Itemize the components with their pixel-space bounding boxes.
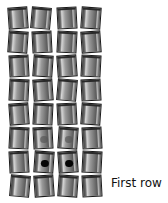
black-dot-marker — [41, 160, 49, 168]
tile — [8, 78, 29, 101]
faint-dot-marker — [65, 136, 73, 144]
tile — [7, 30, 28, 53]
tile-edge — [10, 31, 28, 34]
tile — [56, 78, 78, 102]
tile — [80, 54, 101, 77]
tile-edge — [82, 56, 100, 59]
tile — [57, 174, 78, 197]
tile — [56, 102, 77, 125]
tile-edge — [33, 128, 51, 131]
tile — [81, 150, 102, 173]
tile-edge — [58, 32, 76, 35]
tile-edge — [58, 151, 76, 154]
tile-edge — [57, 8, 75, 11]
tile — [8, 126, 29, 149]
first-row-label: First row — [111, 176, 162, 190]
tile — [32, 54, 53, 77]
black-dot-marker — [65, 160, 73, 168]
tile-edge — [83, 103, 101, 106]
tile-edge — [10, 128, 28, 131]
tile — [80, 6, 101, 29]
tile-edge — [82, 128, 100, 131]
tile — [30, 6, 52, 30]
tile-edge — [82, 176, 100, 179]
tile-edge — [32, 32, 50, 35]
tile-edge — [10, 80, 28, 83]
tile — [31, 30, 52, 53]
tile-edge — [12, 175, 30, 179]
tile-edge — [57, 55, 75, 58]
faint-dot-marker — [40, 136, 48, 143]
tile-edge — [57, 104, 75, 107]
tile — [80, 102, 101, 125]
tile — [57, 126, 78, 149]
tile — [81, 126, 102, 149]
tile — [8, 150, 29, 173]
tile-edge — [59, 79, 77, 83]
tile — [80, 30, 101, 53]
tile-edge — [8, 7, 26, 10]
tile-edge — [60, 175, 78, 178]
tile — [7, 6, 28, 29]
tile-edge — [9, 152, 27, 155]
tile — [81, 174, 102, 197]
tile — [56, 6, 77, 29]
tile — [57, 150, 78, 173]
tile-stack — [0, 0, 110, 203]
tile — [56, 30, 77, 53]
tile-edge — [35, 55, 53, 58]
tile-edge — [36, 151, 54, 154]
tile-edge — [9, 103, 27, 106]
tile-edge — [81, 80, 99, 83]
tile — [33, 174, 54, 197]
tile-edge — [34, 175, 52, 178]
tile — [33, 150, 54, 173]
tile-edge — [81, 31, 99, 34]
tile — [32, 78, 53, 101]
tile — [32, 126, 53, 149]
tile — [8, 102, 29, 125]
tile — [56, 54, 77, 77]
tile-edge — [9, 56, 27, 59]
tile-edge — [83, 152, 101, 155]
tile — [80, 78, 101, 101]
tile — [8, 54, 29, 77]
tile-edge — [33, 79, 51, 82]
tile — [9, 174, 31, 198]
tile — [32, 102, 53, 125]
tile-edge — [60, 127, 78, 130]
tile-edge — [83, 7, 101, 10]
tile-edge — [33, 7, 51, 11]
tile-edge — [34, 104, 52, 107]
